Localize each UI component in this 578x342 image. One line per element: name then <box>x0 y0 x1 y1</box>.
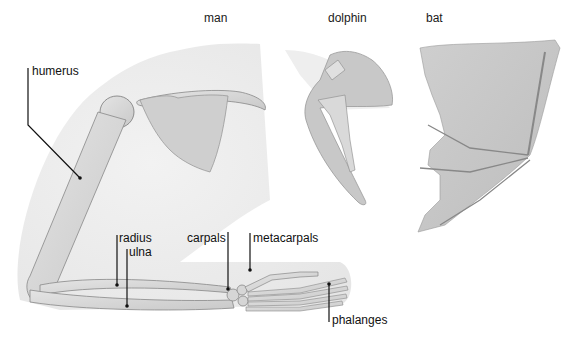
label-phalanges: phalanges <box>332 313 387 327</box>
title-bat: bat <box>426 11 443 25</box>
label-radius: radius <box>119 231 152 245</box>
illustration <box>0 0 578 342</box>
label-humerus: humerus <box>32 64 79 78</box>
title-dolphin: dolphin <box>328 11 367 25</box>
label-carpals: carpals <box>187 231 226 245</box>
homologous-limbs-diagram: man dolphin bat humerus radius ulna carp… <box>0 0 578 342</box>
human-arm-figure <box>17 43 351 311</box>
bat-wing-figure <box>418 40 560 232</box>
title-man: man <box>204 11 227 25</box>
label-ulna: ulna <box>129 245 152 259</box>
dolphin-flipper-figure <box>285 50 393 205</box>
label-metacarpals: metacarpals <box>253 231 318 245</box>
